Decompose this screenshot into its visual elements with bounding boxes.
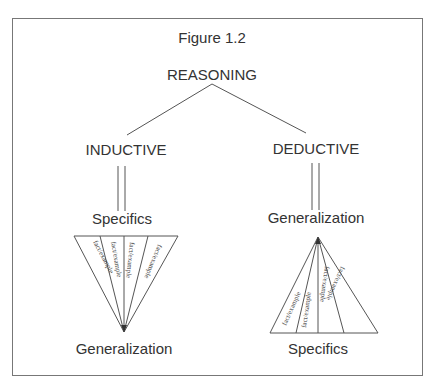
svg-text:fact/example: fact/example bbox=[281, 291, 303, 327]
svg-text:fact/example: fact/example bbox=[143, 243, 164, 280]
svg-text:fact/example: fact/example bbox=[124, 242, 136, 279]
diagram-lines: fact/example fact/example fact/example f… bbox=[0, 0, 434, 389]
svg-text:fact/example: fact/example bbox=[300, 291, 313, 328]
